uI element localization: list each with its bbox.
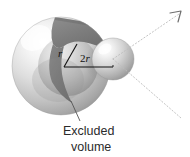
dotted-ray-upper-icon xyxy=(113,14,179,59)
diameter-label: 2r xyxy=(80,52,91,64)
inner-core-shade xyxy=(32,58,84,102)
figure-canvas: r 2r Excluded volume xyxy=(0,0,190,157)
small-sphere-centre-dot xyxy=(112,65,114,67)
dotted-ray-lower-icon xyxy=(113,59,181,118)
excluded-volume-figure: r 2r Excluded volume xyxy=(0,0,190,157)
radius-label: r xyxy=(58,47,63,59)
caption-line-1: Excluded xyxy=(63,124,114,138)
diameter-symbol: r xyxy=(86,52,91,64)
caption-line-2: volume xyxy=(71,140,111,154)
